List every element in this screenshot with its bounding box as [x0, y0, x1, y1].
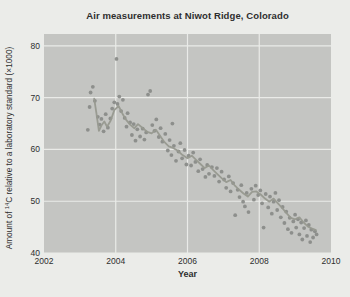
- data-point: [198, 157, 202, 161]
- data-point: [262, 226, 266, 230]
- x-tick-label: 2008: [250, 256, 269, 266]
- data-point: [247, 210, 251, 214]
- data-point: [135, 127, 139, 131]
- data-point: [146, 93, 150, 97]
- data-point: [243, 205, 247, 209]
- data-point: [220, 170, 224, 174]
- x-tick-label: 2004: [106, 256, 125, 266]
- data-point: [229, 190, 233, 194]
- data-point: [143, 138, 147, 142]
- y-tick-label: 40: [31, 248, 41, 258]
- y-tick-label: 60: [31, 144, 41, 154]
- chart-figure: Air measurements at Niwot Ridge, Colorad…: [0, 0, 350, 297]
- data-point: [233, 213, 237, 217]
- y-tick-label: 80: [31, 41, 41, 51]
- data-point: [302, 226, 306, 230]
- data-point: [86, 128, 90, 132]
- data-point: [117, 95, 121, 99]
- data-point: [293, 213, 297, 217]
- data-point: [189, 164, 193, 168]
- chart-canvas: 200220042006200820104050607080 Amount of…: [0, 0, 350, 297]
- data-point: [170, 153, 174, 157]
- data-point: [88, 105, 92, 109]
- data-point: [148, 89, 152, 93]
- data-point: [154, 118, 158, 122]
- data-point: [166, 149, 170, 153]
- data-point: [180, 156, 184, 160]
- data-point: [89, 91, 93, 95]
- data-point: [217, 180, 221, 184]
- data-point: [191, 151, 195, 155]
- data-point: [91, 85, 95, 89]
- data-point: [178, 141, 182, 145]
- data-point: [238, 195, 242, 199]
- data-point: [286, 227, 290, 231]
- data-point: [204, 175, 208, 179]
- data-point: [159, 126, 163, 130]
- data-point: [213, 174, 217, 178]
- data-point: [300, 238, 304, 242]
- data-point: [150, 123, 154, 127]
- data-point: [104, 112, 108, 116]
- data-point: [298, 233, 302, 237]
- y-tick-label: 70: [31, 93, 41, 103]
- data-point: [305, 234, 309, 238]
- data-point: [134, 139, 138, 143]
- data-point: [168, 138, 172, 142]
- data-point: [130, 133, 134, 137]
- data-point: [163, 132, 167, 136]
- data-point: [270, 212, 274, 216]
- data-point: [260, 201, 264, 205]
- data-point: [239, 183, 243, 187]
- plot-layer: 200220042006200820104050607080: [31, 34, 341, 266]
- data-point: [294, 226, 298, 230]
- data-point: [241, 200, 245, 204]
- data-point: [311, 236, 315, 240]
- data-point: [266, 206, 270, 210]
- data-point: [250, 187, 254, 191]
- data-point: [102, 129, 106, 133]
- data-point: [183, 148, 187, 152]
- data-point: [126, 111, 130, 115]
- data-point: [254, 184, 258, 188]
- data-point: [171, 122, 175, 126]
- data-point: [258, 189, 262, 193]
- data-point: [290, 231, 294, 235]
- y-tick-label: 50: [31, 196, 41, 206]
- data-point: [264, 192, 268, 196]
- data-point: [275, 208, 279, 212]
- data-point: [125, 125, 129, 129]
- data-point: [138, 135, 142, 139]
- data-point: [315, 233, 319, 237]
- data-point: [304, 219, 308, 223]
- data-point: [279, 215, 283, 219]
- data-point: [268, 195, 272, 199]
- y-axis-label: Amount of 14C relative to a laboratory s…: [4, 46, 14, 249]
- data-point: [227, 175, 231, 179]
- data-point: [283, 221, 287, 225]
- x-axis-label: Year: [44, 269, 331, 279]
- data-point: [185, 163, 189, 167]
- data-point: [121, 98, 125, 102]
- x-tick-label: 2010: [322, 256, 341, 266]
- data-point: [274, 191, 278, 195]
- x-tick-label: 2006: [178, 256, 197, 266]
- data-point: [252, 198, 256, 202]
- data-point: [207, 172, 211, 176]
- data-point: [277, 198, 281, 202]
- data-point: [224, 186, 228, 190]
- data-point: [115, 57, 119, 61]
- data-point: [196, 169, 200, 173]
- data-point: [308, 240, 312, 244]
- data-point: [174, 159, 178, 163]
- data-point: [100, 117, 104, 121]
- data-point: [215, 166, 219, 170]
